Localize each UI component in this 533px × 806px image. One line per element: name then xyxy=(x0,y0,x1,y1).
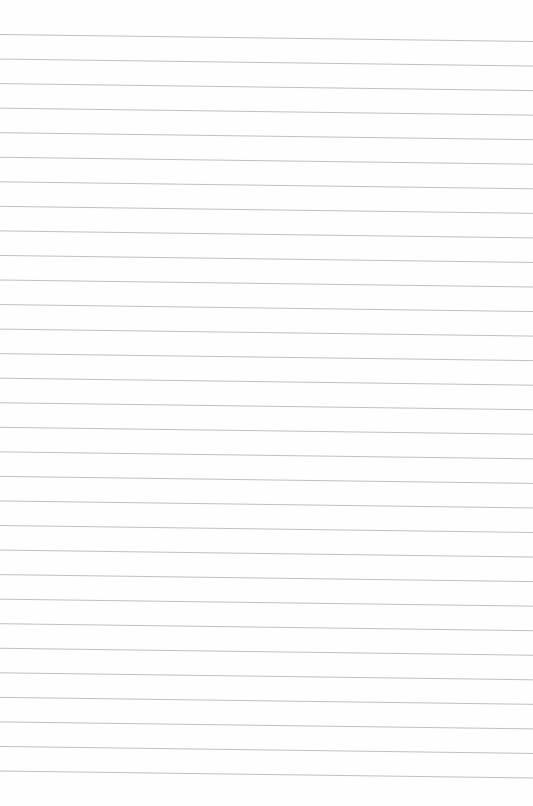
ruled-line xyxy=(0,231,533,238)
ruled-line xyxy=(0,354,533,361)
ruled-line xyxy=(0,59,533,66)
ruled-line xyxy=(0,648,533,655)
ruled-line xyxy=(0,452,533,459)
ruled-line xyxy=(0,84,533,91)
ruled-line xyxy=(0,255,533,262)
ruled-line xyxy=(0,501,533,508)
ruled-line xyxy=(0,427,533,434)
ruled-line xyxy=(0,35,533,42)
ruled-paper-sheet xyxy=(0,0,533,806)
ruled-line xyxy=(0,599,533,606)
ruled-line xyxy=(0,697,533,704)
ruled-line xyxy=(0,673,533,680)
ruled-line xyxy=(0,108,533,115)
ruled-line xyxy=(0,575,533,582)
ruled-line xyxy=(0,182,533,189)
ruled-line xyxy=(0,526,533,533)
ruled-line xyxy=(0,722,533,729)
ruled-line xyxy=(0,280,533,287)
ruled-line xyxy=(0,746,533,753)
ruled-line xyxy=(0,305,533,312)
ruled-line xyxy=(0,133,533,140)
ruled-lines xyxy=(0,0,533,806)
ruled-line xyxy=(0,206,533,213)
ruled-line xyxy=(0,771,533,778)
ruled-line xyxy=(0,476,533,483)
ruled-line xyxy=(0,624,533,631)
ruled-line xyxy=(0,157,533,164)
ruled-line xyxy=(0,329,533,336)
ruled-line xyxy=(0,378,533,385)
ruled-line xyxy=(0,403,533,410)
ruled-line xyxy=(0,550,533,557)
